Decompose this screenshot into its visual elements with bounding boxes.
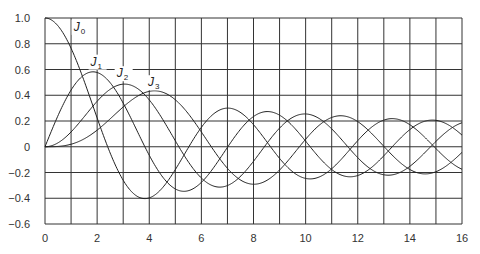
bessel-chart: J0J1J2J3 0246810121416 −0.6−0.4−0.200.20… <box>0 0 480 254</box>
x-axis-ticks: 0246810121416 <box>42 232 468 244</box>
y-tick-label: 0.2 <box>15 115 30 127</box>
y-tick-label: −0.4 <box>8 192 30 204</box>
y-tick-label: 1.0 <box>15 12 30 24</box>
x-tick-label: 0 <box>42 232 48 244</box>
curve-labels: J0J1J2J3 <box>72 20 164 91</box>
x-tick-label: 8 <box>250 232 256 244</box>
y-tick-label: −0.2 <box>8 167 30 179</box>
x-tick-label: 4 <box>146 232 152 244</box>
x-tick-label: 12 <box>352 232 364 244</box>
y-tick-label: 0.6 <box>15 64 30 76</box>
y-tick-label: 0 <box>24 141 30 153</box>
x-tick-label: 2 <box>94 232 100 244</box>
x-tick-label: 14 <box>404 232 416 244</box>
y-axis-ticks: −0.6−0.4−0.200.20.40.60.81.0 <box>8 12 30 230</box>
x-tick-label: 10 <box>300 232 312 244</box>
y-tick-label: 0.8 <box>15 38 30 50</box>
y-tick-label: 0.4 <box>15 89 30 101</box>
y-tick-label: −0.6 <box>8 218 30 230</box>
x-tick-label: 6 <box>198 232 204 244</box>
x-tick-label: 16 <box>456 232 468 244</box>
